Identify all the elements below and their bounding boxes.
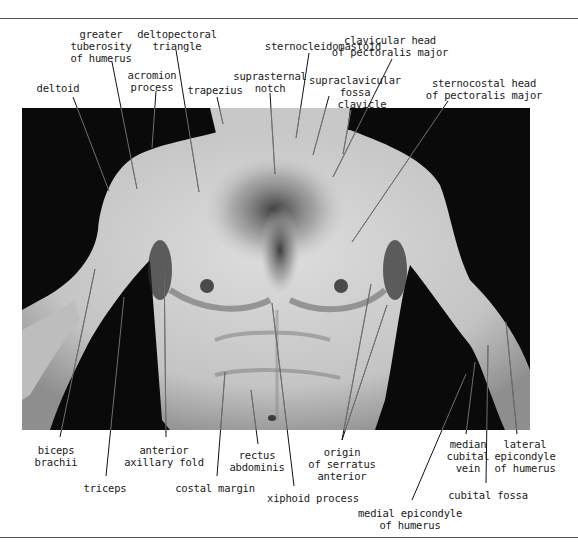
label-supraclavicular-fossa: supraclavicular fossa xyxy=(309,74,401,98)
label-cubital-fossa: cubital fossa xyxy=(448,489,528,501)
label-origin-serratus-anterior: origin of serratus anterior xyxy=(308,446,375,482)
label-acromion-process: acromion process xyxy=(128,69,177,93)
label-sternocostal-head-pectoralis: sternocostal head of pectoralis major xyxy=(426,77,542,101)
label-lateral-epicondyle: lateral epicondyle of humerus xyxy=(494,438,555,474)
label-deltopectoral-triangle: deltopectoral triangle xyxy=(137,28,217,52)
label-clavicle: clavicle xyxy=(338,98,387,110)
label-median-cubital-vein: median cubital vein xyxy=(447,438,490,474)
label-suprasternal-notch: suprasternal notch xyxy=(233,70,306,94)
bottom-rule xyxy=(0,537,578,538)
label-deltoid: deltoid xyxy=(37,82,80,94)
anatomy-figure: greater tuberosity of humerusdeltopector… xyxy=(0,0,578,543)
label-anterior-axillary-fold: anterior axillary fold xyxy=(124,444,204,468)
label-xiphoid-process: xiphoid process xyxy=(267,492,359,504)
label-costal-margin: costal margin xyxy=(175,482,255,494)
label-rectus-abdominis: rectus abdominis xyxy=(229,449,284,473)
label-clavicular-head-pectoralis: clavicular head of pectoralis major xyxy=(332,34,448,58)
photo-content xyxy=(22,108,530,430)
label-greater-tuberosity: greater tuberosity of humerus xyxy=(70,28,131,64)
label-triceps: triceps xyxy=(84,482,127,494)
label-medial-epicondyle: medial epicondyle of humerus xyxy=(358,507,462,531)
label-biceps-brachii: biceps brachii xyxy=(35,444,78,468)
